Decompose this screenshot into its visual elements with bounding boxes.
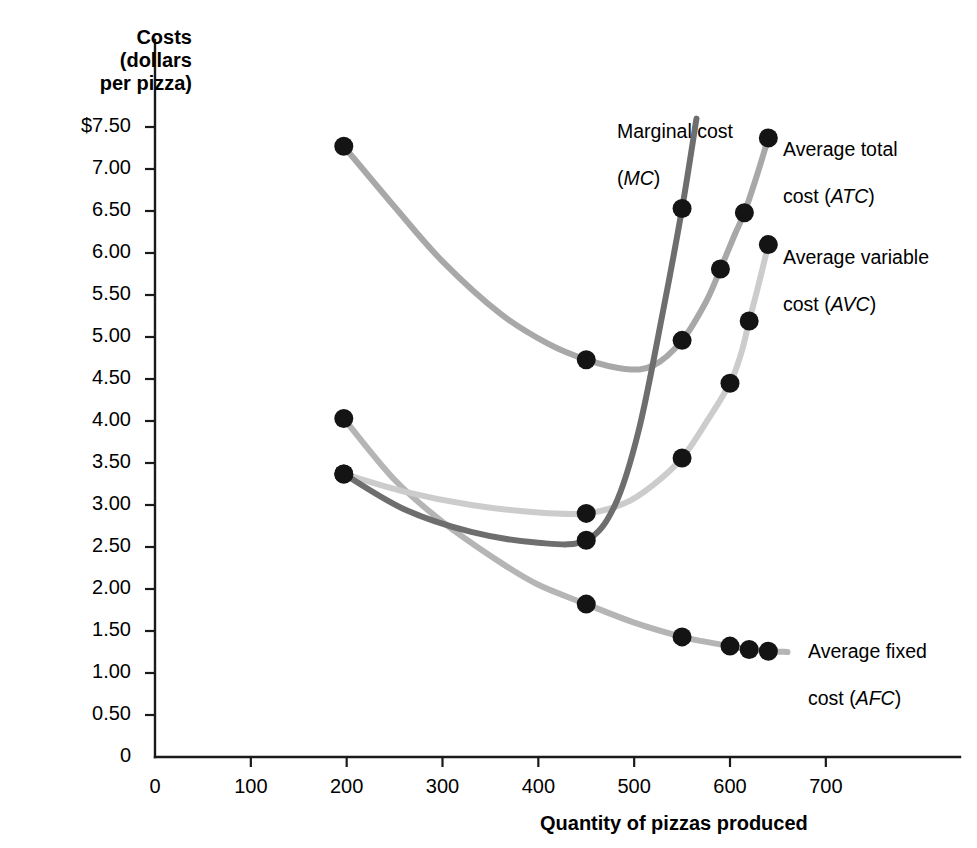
data-point-avc	[577, 504, 596, 523]
y-tick-label: 6.50	[39, 198, 131, 221]
data-point-afc	[334, 409, 353, 428]
data-point-afc	[759, 642, 778, 661]
y-tick-label: 6.00	[39, 240, 131, 263]
avc-label-abbrev: AVC	[831, 293, 870, 315]
annotation-average-fixed-cost: Average fixed cost (AFC)	[808, 616, 927, 710]
y-tick-label: $7.50	[39, 114, 131, 137]
data-point-afc	[740, 640, 759, 659]
annotation-average-total-cost: Average total cost (ATC)	[783, 114, 898, 208]
curve-avc	[344, 245, 769, 515]
x-tick-label: 500	[604, 775, 664, 798]
y-tick-label: 3.50	[39, 450, 131, 473]
afc-label-line2-pre: cost (	[808, 687, 856, 709]
afc-label-abbrev: AFC	[856, 687, 895, 709]
annotation-marginal-cost: Marginal cost (MC)	[617, 96, 733, 190]
x-axis-title: Quantity of pizzas produced	[540, 812, 808, 835]
y-tick-label: 0.50	[39, 702, 131, 725]
y-tick-label: 1.50	[39, 618, 131, 641]
data-point-afc	[721, 637, 740, 656]
data-point-mc	[334, 464, 353, 483]
mc-label-abbrev: MC	[624, 167, 654, 189]
avc-label-line1: Average variable	[783, 246, 929, 268]
x-tick-label: 0	[125, 775, 185, 798]
y-axis-ticks	[145, 127, 155, 715]
y-tick-label: 5.00	[39, 324, 131, 347]
data-points-group	[334, 128, 778, 660]
avc-label-line2-pre: cost (	[783, 293, 831, 315]
data-point-atc	[334, 137, 353, 156]
curve-afc	[344, 418, 788, 652]
data-point-atc	[577, 350, 596, 369]
data-point-mc	[577, 531, 596, 550]
x-tick-label: 200	[317, 775, 377, 798]
atc-label-line1: Average total	[783, 138, 898, 160]
annotation-average-variable-cost: Average variable cost (AVC)	[783, 222, 929, 316]
data-point-avc	[721, 374, 740, 393]
atc-label-line2-pre: cost (	[783, 185, 831, 207]
x-axis-ticks	[251, 757, 826, 767]
data-point-mc	[673, 199, 692, 218]
afc-label-line1: Average fixed	[808, 640, 927, 662]
data-point-afc	[673, 627, 692, 646]
y-axis-title: Costs (dollars per pizza)	[72, 26, 192, 95]
y-tick-label: 4.50	[39, 366, 131, 389]
data-point-atc	[673, 331, 692, 350]
y-tick-label: 5.50	[39, 282, 131, 305]
y-tick-label: 2.00	[39, 576, 131, 599]
avc-label-paren-close: )	[870, 293, 877, 315]
x-tick-label: 700	[796, 775, 856, 798]
y-tick-label: 3.00	[39, 492, 131, 515]
x-tick-label: 100	[221, 775, 281, 798]
data-point-afc	[577, 595, 596, 614]
data-point-avc	[759, 235, 778, 254]
data-point-avc	[740, 312, 759, 331]
y-tick-label: 1.00	[39, 660, 131, 683]
afc-label-paren-close: )	[895, 687, 902, 709]
y-tick-label: 4.00	[39, 408, 131, 431]
mc-label-paren-close: )	[654, 167, 661, 189]
data-point-avc	[673, 448, 692, 467]
mc-label-line1: Marginal cost	[617, 120, 733, 142]
x-tick-label: 400	[508, 775, 568, 798]
y-tick-label: 0	[39, 744, 131, 767]
data-point-atc	[759, 128, 778, 147]
atc-label-abbrev: ATC	[831, 185, 869, 207]
y-tick-label: 7.00	[39, 156, 131, 179]
x-tick-label: 600	[700, 775, 760, 798]
data-point-atc	[711, 259, 730, 278]
x-tick-label: 300	[413, 775, 473, 798]
y-tick-label: 2.50	[39, 534, 131, 557]
atc-label-paren-close: )	[868, 185, 875, 207]
data-point-atc	[735, 203, 754, 222]
cost-curves-figure: Costs (dollars per pizza) Quantity of pi…	[0, 0, 977, 848]
